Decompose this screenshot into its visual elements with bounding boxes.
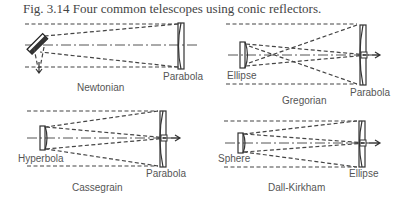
reflected-ray-2 — [40, 47, 44, 68]
gregorian-title: Gregorian — [282, 95, 326, 106]
newtonian-primary-label: Parabola — [163, 71, 203, 82]
focus-arrow — [368, 52, 380, 58]
ray-converge-top — [46, 111, 158, 127]
dall-kirkham-secondary-label: Sphere — [218, 153, 251, 164]
ray-return-top — [46, 127, 168, 138]
ray-return-bottom — [246, 55, 368, 66]
focus-arrow — [366, 140, 380, 146]
ray-converge-top — [244, 121, 357, 134]
dall-kirkham-primary-label: Ellipse — [349, 168, 379, 179]
focus-arrow — [168, 135, 180, 141]
newtonian-diagram: Parabola Newtonian — [25, 23, 203, 93]
gregorian-secondary-label: Ellipse — [227, 70, 257, 81]
ray-converge-bottom — [244, 152, 357, 167]
dall-kirkham-title: Dall-Kirkham — [268, 182, 325, 193]
ray-cross-1 — [246, 25, 357, 64]
cassegrain-primary-label: Parabola — [146, 168, 186, 179]
ray-return-top — [244, 134, 366, 143]
telescope-diagrams: Parabola Newtonian Ellipse Parabola Greg… — [0, 0, 406, 200]
ray-return-bottom — [244, 143, 366, 152]
cassegrain-diagram: Hyperbola Parabola Cassegrain — [18, 111, 186, 193]
primary-mirror-surface — [179, 23, 182, 69]
newtonian-title: Newtonian — [77, 82, 124, 93]
ray-return-top — [246, 44, 368, 55]
cassegrain-secondary-label: Hyperbola — [18, 153, 64, 164]
diagonal-flat-mirror — [27, 34, 48, 55]
cassegrain-title: Cassegrain — [72, 182, 123, 193]
dall-kirkham-diagram: Sphere Ellipse Dall-Kirkham — [218, 121, 380, 193]
converging-ray-bottom — [40, 52, 178, 67]
gregorian-diagram: Ellipse Parabola Gregorian — [226, 24, 390, 106]
gregorian-primary-label: Parabola — [350, 87, 390, 98]
ray-return-bottom — [46, 138, 168, 149]
converging-ray-top — [45, 24, 178, 36]
